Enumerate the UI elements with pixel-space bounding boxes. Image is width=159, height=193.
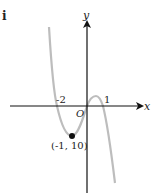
point-label: (-1, 10) <box>51 140 88 151</box>
tick-label-neg-two: -2 <box>56 94 66 105</box>
x-axis-label: x <box>144 100 151 113</box>
y-axis-label: y <box>82 9 90 22</box>
origin-label: O <box>76 108 84 119</box>
tick-label-one: 1 <box>104 94 110 105</box>
cubic-graph: y x O -2 1 (-1, 10) <box>0 0 159 193</box>
turning-point-marker <box>69 133 75 139</box>
cubic-curve <box>49 27 115 183</box>
